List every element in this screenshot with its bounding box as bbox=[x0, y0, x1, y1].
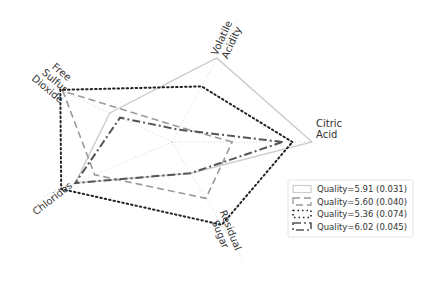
legend: Quality=5.91 (0.031)Quality=5.60 (0.040)… bbox=[288, 180, 413, 237]
radar-chart: CitricAcidVolatileAcidityFreeSulfurDioxi… bbox=[0, 0, 423, 285]
series-solid bbox=[75, 58, 312, 183]
legend-label: Quality=5.91 (0.031) bbox=[317, 184, 407, 194]
axis-label-volatile-acidity: VolatileAcidity bbox=[209, 19, 244, 62]
axis-label-line: Acid bbox=[316, 129, 337, 140]
axis-label-chlorides: Chlorides bbox=[30, 180, 74, 217]
series-group bbox=[60, 58, 312, 225]
axis-label-line: Chlorides bbox=[30, 180, 74, 217]
axis-label-free-sulfur-dioxide: FreeSulfurDioxide bbox=[30, 56, 80, 105]
legend-label: Quality=5.36 (0.074) bbox=[317, 209, 407, 219]
axis-label-residual-sugar: ResidualSugar bbox=[207, 208, 243, 255]
axis-label-line: Citric bbox=[316, 118, 342, 129]
legend-label: Quality=6.02 (0.045) bbox=[317, 222, 407, 232]
axis-label-citric-acid: CitricAcid bbox=[316, 118, 342, 140]
legend-label: Quality=5.60 (0.040) bbox=[317, 197, 407, 207]
